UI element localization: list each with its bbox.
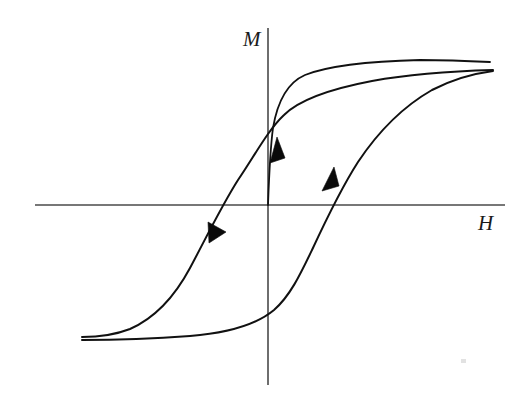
field-axis-label: H <box>477 211 495 235</box>
magnetization-axis-label: M <box>242 27 262 51</box>
scan-speck <box>461 359 466 363</box>
hysteresis-plot-canvas: M H <box>0 0 527 407</box>
hysteresis-figure: M H <box>0 0 527 407</box>
